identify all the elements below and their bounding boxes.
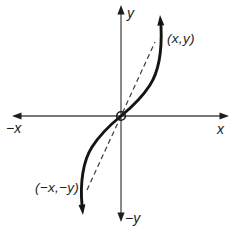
x-axis-left-arrowhead-icon [12, 112, 22, 119]
point-label-neg-x-neg-y: (−x,−y) [35, 181, 79, 195]
x-axis-right-arrowhead-icon [220, 112, 230, 119]
x-axis-label: x [217, 122, 224, 136]
y-axis-label: y [127, 6, 134, 20]
negative-y-axis-label: −y [125, 211, 140, 225]
graph-canvas [0, 0, 243, 233]
figure-odd-function-graph: y x −x −y (x,y) (−x,−y) [0, 0, 243, 233]
negative-x-axis-label: −x [6, 121, 21, 135]
curve-bottom-arrowhead-icon [79, 204, 86, 215]
y-axis-bottom-arrowhead-icon [117, 213, 124, 223]
point-label-xy: (x,y) [167, 32, 195, 46]
curve-top-arrowhead-icon [157, 15, 164, 26]
y-axis-top-arrowhead-icon [117, 5, 124, 15]
